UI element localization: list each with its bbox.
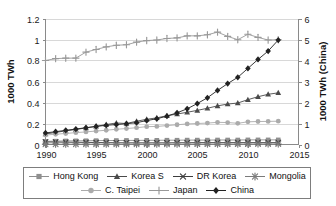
y-tick-label-right-4: 4 [305, 57, 310, 67]
y-tick-label-left-3: 0.6 [27, 78, 40, 88]
marker-plus [133, 39, 139, 45]
legend-marker-icon [244, 171, 266, 182]
marker-plus [214, 29, 220, 35]
marker-circle [144, 124, 149, 129]
marker-circle [88, 187, 93, 192]
marker-plus [204, 32, 210, 38]
marker-circle [104, 128, 109, 133]
x-tick-label-3: 2005 [187, 150, 207, 160]
marker-circle [276, 119, 281, 124]
legend-item-label: DR Korea [197, 171, 237, 182]
marker-diamond [144, 117, 150, 123]
marker-plus [265, 37, 271, 43]
legend-swatch-diamond [205, 185, 227, 196]
y-axis-left-title: 1000 TWh [5, 59, 16, 104]
x-tick-label-0: 1990 [36, 150, 56, 160]
marker-circle [235, 121, 240, 126]
y-tick-label-left-2: 0.4 [27, 99, 40, 109]
marker-circle [245, 119, 250, 124]
legend-marker-icon [80, 185, 102, 196]
marker-asterisk [245, 141, 251, 147]
marker-diamond [225, 80, 231, 86]
y-tick-label-right-3: 3 [305, 78, 310, 88]
x-tick-label-4: 2010 [238, 150, 258, 160]
legend-item-hong-kong[interactable]: Hong Kong [28, 171, 98, 182]
legend-row-1: Hong KongKorea SDR KoreaMongolia [28, 169, 306, 183]
marker-diamond [114, 121, 120, 127]
marker-circle [256, 119, 261, 124]
marker-diamond [213, 187, 219, 194]
series-line [46, 142, 279, 143]
y-tick-label-right-1: 1 [305, 120, 310, 130]
y-axis-right-title: 1000 TWh (China) [317, 42, 328, 122]
marker-asterisk [123, 141, 129, 147]
marker-plus [194, 33, 200, 39]
marker-circle [266, 119, 271, 124]
series-line [46, 32, 279, 60]
legend-swatch-circle [80, 185, 102, 196]
y-tick-label-left-6: 1.2 [27, 15, 40, 25]
y-tick-label-left-1: 0.2 [27, 120, 40, 130]
legend-swatch-triangle [106, 171, 128, 182]
marker-diamond [184, 106, 190, 112]
legend-item-label: Japan [173, 185, 198, 196]
legend-marker-icon [148, 185, 170, 196]
series-line [46, 40, 279, 133]
marker-plus [245, 31, 251, 37]
marker-asterisk [63, 141, 69, 147]
legend-swatch-asterisk [244, 171, 266, 182]
marker-diamond [205, 95, 211, 101]
marker-diamond [124, 121, 130, 127]
marker-asterisk [204, 141, 210, 147]
marker-plus [42, 57, 48, 63]
marker-circle [195, 121, 200, 126]
marker-asterisk [214, 141, 220, 147]
marker-circle [175, 122, 180, 127]
marker-circle [134, 125, 139, 130]
legend-swatch-cross-x [172, 171, 194, 182]
marker-circle [185, 122, 190, 127]
marker-asterisk [83, 141, 89, 147]
marker-asterisk [235, 141, 241, 147]
marker-asterisk [184, 141, 190, 147]
legend-item-mongolia[interactable]: Mongolia [244, 171, 306, 182]
legend-item-label: Hong Kong [53, 171, 98, 182]
legend-swatch-square [28, 171, 50, 182]
legend-row-2: C. TaipeiJapanChina [28, 183, 306, 197]
marker-asterisk [73, 141, 79, 147]
legend-item-label: Mongolia [269, 171, 306, 182]
marker-plus [123, 42, 129, 48]
legend-item-korea-s[interactable]: Korea S [106, 171, 164, 182]
legend-marker-icon [28, 171, 50, 182]
marker-circle [165, 123, 170, 128]
y-tick-label-right-5: 5 [305, 36, 310, 46]
y-tick-label-left-4: 0.8 [27, 56, 40, 66]
marker-circle [225, 120, 230, 125]
marker-plus [83, 49, 89, 55]
marker-asterisk [103, 141, 109, 147]
marker-asterisk [252, 173, 259, 180]
legend-marker-icon [172, 171, 194, 182]
legend-item-c-taipei[interactable]: C. Taipei [80, 185, 140, 196]
y-tick-label-right-6: 6 [305, 15, 310, 25]
legend-item-dr-korea[interactable]: DR Korea [172, 171, 237, 182]
chart-legend: Hong KongKorea SDR KoreaMongoliaC. Taipe… [23, 167, 311, 199]
marker-diamond [215, 87, 221, 93]
marker-diamond [164, 113, 170, 119]
series-line [46, 93, 279, 134]
marker-asterisk [144, 141, 150, 147]
legend-item-japan[interactable]: Japan [148, 185, 198, 196]
marker-diamond [154, 116, 160, 122]
marker-plus [184, 33, 190, 39]
legend-item-china[interactable]: China [205, 185, 254, 196]
marker-asterisk [133, 141, 139, 147]
legend-marker-icon [106, 171, 128, 182]
marker-asterisk [255, 141, 261, 147]
x-tick-label-1: 1995 [86, 150, 106, 160]
series-c-taipei [43, 119, 281, 138]
series-china [43, 37, 281, 136]
marker-asterisk [225, 141, 231, 147]
series-mongolia [42, 141, 281, 147]
marker-asterisk [42, 141, 48, 147]
marker-diamond [103, 122, 109, 128]
